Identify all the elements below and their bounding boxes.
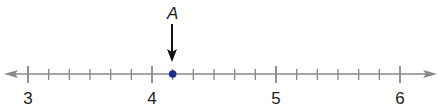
tick-labels: 3456	[23, 89, 404, 108]
tick-label: 5	[271, 89, 280, 108]
tick-label: 3	[23, 89, 32, 108]
point-a-dot	[169, 70, 177, 78]
point-label: A	[166, 4, 178, 23]
tick-label: 6	[395, 89, 404, 108]
number-line-diagram: 3456 A	[0, 0, 441, 109]
tick-label: 4	[147, 89, 156, 108]
